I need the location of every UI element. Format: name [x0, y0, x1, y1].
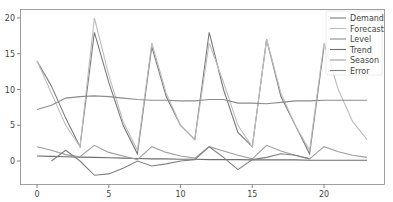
x-tick-label: 15	[247, 190, 257, 199]
line-chart: 05101520 05101520 DemandForecastLevelTre…	[0, 0, 393, 202]
y-tick-label: 0	[10, 157, 15, 166]
y-tick-label: 20	[5, 14, 15, 23]
legend-label-demand: Demand	[350, 14, 384, 23]
series-line-error	[51, 147, 309, 176]
legend-label-forecast: Forecast	[350, 25, 384, 34]
plot-lines	[37, 18, 367, 175]
x-tick-label: 0	[34, 190, 39, 199]
legend-label-trend: Trend	[349, 46, 372, 55]
y-tick-label: 5	[10, 121, 15, 130]
x-tick-label: 10	[175, 190, 185, 199]
legend-label-season: Season	[350, 56, 379, 65]
legend: DemandForecastLevelTrendSeasonError	[326, 11, 384, 76]
series-line-trend	[37, 156, 367, 160]
legend-label-error: Error	[350, 67, 370, 76]
legend-label-level: Level	[350, 35, 371, 44]
y-tick-label: 10	[5, 86, 15, 95]
y-axis: 05101520	[5, 14, 21, 166]
y-tick-label: 15	[5, 50, 15, 59]
x-axis: 05101520	[34, 185, 329, 200]
x-tick-label: 5	[106, 190, 111, 199]
x-tick-label: 20	[319, 190, 329, 199]
